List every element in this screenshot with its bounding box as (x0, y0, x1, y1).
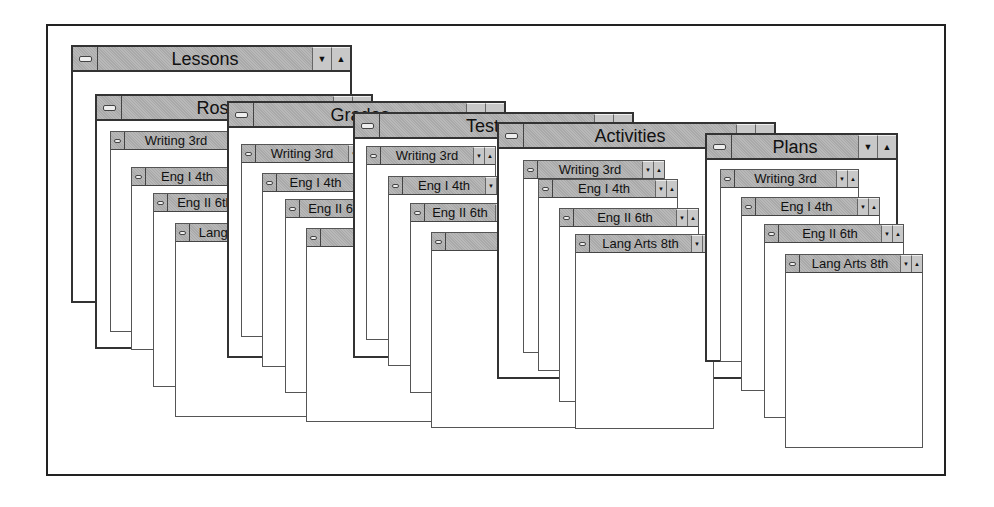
win-activities-lang-arts-8th-title-bar[interactable]: Lang Arts 8th▼▲ (576, 235, 713, 253)
system-menu-icon (266, 181, 273, 185)
system-menu-button[interactable] (721, 170, 735, 187)
system-menu-icon (579, 242, 586, 246)
system-menu-icon (563, 216, 570, 220)
win-activities-eng-ii-6th-title: Eng II 6th (574, 209, 676, 226)
window-buttons: ▼▲ (655, 180, 677, 197)
win-plans-title-bar[interactable]: Plans▼▲ (707, 135, 896, 160)
maximize-button[interactable]: ▲ (653, 161, 664, 178)
maximize-button[interactable]: ▲ (484, 147, 495, 164)
system-menu-icon (527, 168, 534, 172)
minimize-button[interactable]: ▼ (836, 170, 847, 187)
system-menu-icon (724, 177, 731, 181)
minimize-button[interactable]: ▼ (485, 177, 496, 194)
win-plans-writing-3rd-title: Writing 3rd (735, 170, 836, 187)
system-menu-button[interactable] (707, 135, 732, 158)
system-menu-button[interactable] (242, 145, 256, 162)
system-menu-button[interactable] (263, 174, 277, 191)
win-grades-eng-i-4th-title: Eng I 4th (277, 174, 354, 191)
system-menu-icon (745, 205, 752, 209)
maximize-button[interactable]: ▲ (687, 209, 698, 226)
system-menu-icon (179, 231, 186, 235)
win-tests-eng-ii-6th-title: Eng II 6th (425, 204, 495, 221)
system-menu-icon (542, 187, 549, 191)
minimize-button[interactable]: ▼ (881, 225, 892, 242)
minimize-button[interactable]: ▼ (676, 209, 687, 226)
win-plans-lang-arts-8th-title: Lang Arts 8th (800, 255, 900, 272)
system-menu-button[interactable] (286, 200, 300, 217)
system-menu-icon (135, 175, 142, 179)
system-menu-button[interactable] (389, 177, 403, 194)
system-menu-button[interactable] (786, 255, 800, 272)
system-menu-button[interactable] (524, 161, 538, 178)
system-menu-button[interactable] (176, 224, 190, 241)
maximize-button[interactable]: ▲ (847, 170, 858, 187)
minimize-button[interactable]: ▼ (473, 147, 484, 164)
system-menu-button[interactable] (307, 229, 321, 246)
win-plans-eng-ii-6th-title: Eng II 6th (779, 225, 881, 242)
system-menu-icon (289, 207, 296, 211)
maximize-button[interactable]: ▲ (666, 180, 677, 197)
win-tests-writing-3rd-title: Writing 3rd (381, 147, 473, 164)
minimize-button[interactable]: ▼ (858, 135, 877, 158)
system-menu-icon (103, 105, 116, 111)
maximize-button[interactable]: ▲ (877, 135, 896, 158)
system-menu-button[interactable] (499, 124, 524, 147)
win-tests-eng-i-4th-title: Eng I 4th (403, 177, 485, 194)
minimize-button[interactable]: ▼ (900, 255, 911, 272)
minimize-button[interactable]: ▼ (655, 180, 666, 197)
system-menu-button[interactable] (97, 96, 122, 119)
win-rosters-eng-i-4th-title: Eng I 4th (146, 168, 228, 185)
system-menu-button[interactable] (765, 225, 779, 242)
system-menu-icon (414, 211, 421, 215)
system-menu-button[interactable] (154, 194, 168, 211)
minimize-button[interactable]: ▼ (691, 235, 702, 252)
win-tests-eng-i-4th-title-bar[interactable]: Eng I 4th▼▲ (389, 177, 507, 195)
maximize-button[interactable]: ▲ (892, 225, 903, 242)
window-buttons: ▼▲ (676, 209, 698, 226)
window-buttons: ▼▲ (858, 135, 896, 158)
system-menu-icon (713, 144, 726, 150)
win-plans-title: Plans (732, 135, 858, 158)
win-lessons-title-bar[interactable]: Lessons▼▲ (73, 47, 350, 72)
system-menu-button[interactable] (367, 147, 381, 164)
system-menu-button[interactable] (560, 209, 574, 226)
system-menu-button[interactable] (539, 180, 553, 197)
system-menu-button[interactable] (229, 103, 254, 126)
system-menu-button[interactable] (355, 114, 380, 137)
system-menu-icon (392, 184, 399, 188)
win-activities-writing-3rd-title-bar[interactable]: Writing 3rd▼▲ (524, 161, 664, 179)
system-menu-button[interactable] (73, 47, 98, 70)
system-menu-button[interactable] (132, 168, 146, 185)
win-tests-writing-3rd-title-bar[interactable]: Writing 3rd▼▲ (367, 147, 495, 165)
window-buttons: ▼▲ (473, 147, 495, 164)
minimize-button[interactable]: ▼ (312, 47, 331, 70)
win-grades-writing-3rd-title-bar[interactable]: Writing 3rd▼▲ (242, 145, 370, 163)
minimize-button[interactable]: ▼ (642, 161, 653, 178)
win-plans-lang-arts-8th-window[interactable]: Lang Arts 8th▼▲ (785, 254, 923, 448)
win-lessons-title: Lessons (98, 47, 312, 70)
minimize-button[interactable]: ▼ (857, 198, 868, 215)
system-menu-button[interactable] (411, 204, 425, 221)
window-buttons: ▼▲ (881, 225, 903, 242)
system-menu-button[interactable] (576, 235, 590, 252)
win-plans-eng-i-4th-title-bar[interactable]: Eng I 4th▼▲ (742, 198, 879, 216)
system-menu-icon (789, 262, 796, 266)
win-activities-writing-3rd-title: Writing 3rd (538, 161, 642, 178)
maximize-button[interactable]: ▲ (331, 47, 350, 70)
window-buttons: ▼▲ (312, 47, 350, 70)
system-menu-icon (79, 56, 92, 62)
win-plans-writing-3rd-title-bar[interactable]: Writing 3rd▼▲ (721, 170, 858, 188)
system-menu-button[interactable] (432, 233, 446, 250)
win-activities-eng-ii-6th-title-bar[interactable]: Eng II 6th▼▲ (560, 209, 698, 227)
maximize-button[interactable]: ▲ (911, 255, 922, 272)
win-rosters-writing-3rd-title: Writing 3rd (125, 132, 227, 149)
win-activities-lang-arts-8th-window[interactable]: Lang Arts 8th▼▲ (575, 234, 714, 429)
win-activities-eng-i-4th-title: Eng I 4th (553, 180, 655, 197)
win-plans-lang-arts-8th-title-bar[interactable]: Lang Arts 8th▼▲ (786, 255, 922, 273)
window-buttons: ▼▲ (836, 170, 858, 187)
maximize-button[interactable]: ▲ (868, 198, 879, 215)
system-menu-button[interactable] (111, 132, 125, 149)
win-activities-eng-i-4th-title-bar[interactable]: Eng I 4th▼▲ (539, 180, 677, 198)
win-plans-eng-ii-6th-title-bar[interactable]: Eng II 6th▼▲ (765, 225, 903, 243)
system-menu-button[interactable] (742, 198, 756, 215)
